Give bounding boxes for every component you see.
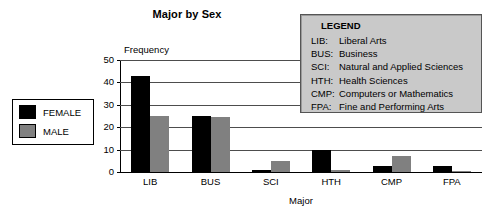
bar-lib-male [150, 116, 169, 172]
legend-panel: LEGEND LIB:Liberal ArtsBUS:BusinessSCI:N… [300, 14, 482, 113]
legend-entry-code: CMP: [311, 87, 339, 100]
legend-entry-description: Liberal Arts [339, 34, 387, 47]
series-legend-key: FEMALE MALE [12, 99, 94, 145]
legend-entry-bus: BUS:Business [311, 47, 479, 60]
legend-panel-title: LEGEND [321, 20, 361, 31]
legend-entry-description: Fine and Performing Arts [339, 100, 444, 113]
legend-entry-description: Business [339, 47, 378, 60]
bar-hth-male [331, 170, 350, 172]
legend-entry-code: BUS: [311, 47, 339, 60]
bar-sci-female [252, 170, 271, 172]
bar-bus-male [211, 117, 230, 172]
y-axis-tick-label: 40 [92, 76, 114, 87]
legend-swatch-male [19, 124, 36, 138]
legend-key-item-male: MALE [19, 124, 69, 138]
y-axis-tick-label: 20 [92, 121, 114, 132]
legend-entry-lib: LIB:Liberal Arts [311, 34, 479, 47]
bar-sci-male [271, 161, 290, 172]
x-axis-title: Major [120, 195, 482, 206]
x-axis-tick-label-hth: HTH [306, 176, 356, 187]
bar-chart-figure: Major by Sex Frequency 01020304050 LIBBU… [0, 0, 498, 218]
legend-entry-list: LIB:Liberal ArtsBUS:BusinessSCI:Natural … [311, 34, 479, 113]
y-axis-tick-label: 10 [92, 144, 114, 155]
y-axis-tick-mark [117, 172, 120, 173]
bar-lib-female [131, 76, 150, 172]
y-axis-tick-label: 30 [92, 99, 114, 110]
legend-entry-sci: SCI:Natural and Applied Sciences [311, 60, 479, 73]
legend-entry-code: SCI: [311, 60, 339, 73]
x-axis-line [120, 172, 482, 173]
legend-entry-description: Natural and Applied Sciences [339, 60, 463, 73]
legend-entry-hth: HTH:Health Sciences [311, 74, 479, 87]
legend-entry-code: LIB: [311, 34, 339, 47]
legend-entry-code: FPA: [311, 100, 339, 113]
bar-bus-female [192, 116, 211, 172]
bar-cmp-male [392, 156, 411, 172]
x-axis-tick-label-lib: LIB [125, 176, 175, 187]
legend-entry-description: Computers or Mathematics [339, 87, 453, 100]
legend-entry-fpa: FPA:Fine and Performing Arts [311, 100, 479, 113]
legend-entry-cmp: CMP:Computers or Mathematics [311, 87, 479, 100]
legend-key-label-female: FEMALE [43, 107, 81, 118]
x-axis-tick-label-bus: BUS [186, 176, 236, 187]
bar-cmp-female [373, 166, 392, 172]
bar-hth-female [312, 150, 331, 172]
x-axis-tick-label-fpa: FPA [427, 176, 477, 187]
legend-key-label-male: MALE [43, 126, 69, 137]
y-axis-tick-label: 50 [92, 54, 114, 65]
bar-fpa-male [452, 171, 471, 172]
legend-key-item-female: FEMALE [19, 105, 81, 119]
legend-entry-code: HTH: [311, 74, 339, 87]
legend-entry-description: Health Sciences [339, 74, 408, 87]
x-axis-tick-label-sci: SCI [246, 176, 296, 187]
bar-fpa-female [433, 166, 452, 172]
legend-swatch-female [19, 105, 36, 119]
y-axis-title: Frequency [124, 44, 169, 55]
y-axis-tick-label: 0 [92, 166, 114, 177]
x-axis-tick-label-cmp: CMP [367, 176, 417, 187]
